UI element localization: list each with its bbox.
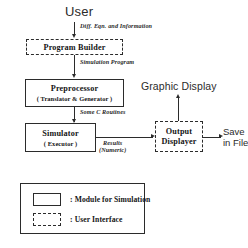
edge-output-displayer-to-graphic-display-line [178,96,179,121]
edge-user-to-program-builder-arrow [72,34,76,38]
node-simulator-sublabel: ( Executor ) [44,140,77,147]
node-preprocessor[interactable]: Preprocessor ( Translator & Generator ) [25,79,124,107]
node-output-displayer[interactable]: Output Displayer [155,121,203,152]
node-user-label: User [65,4,93,19]
edge-label-results-numeric: Results (Numeric) [99,139,126,153]
edge-label-results-line2: (Numeric) [99,146,126,153]
legend-swatch-dashed [33,213,61,226]
legend-label-user-interface: : User Interface [70,215,122,224]
node-simulator-label: Simulator [42,129,78,138]
edge-label-simulation-program: Simulation Program [80,58,134,65]
edge-label-some-c-routines: Some C Routines [80,108,126,115]
edge-output-displayer-to-graphic-display-arrow [176,94,180,98]
node-save-in-file-line1: Save [223,127,248,138]
node-save-in-file-line2: in File [223,138,248,149]
node-graphic-display-label: Graphic Display [141,80,217,92]
node-output-displayer-label-line1: Output [161,127,196,136]
node-preprocessor-sublabel: ( Translator & Generator ) [37,95,113,102]
edge-label-diff-eqn-and-information: Diff. Eqn. and Information [80,22,152,29]
node-program-builder[interactable]: Program Builder [26,39,123,55]
edge-label-results-line1: Results [99,139,126,146]
node-program-builder-label: Program Builder [44,43,106,52]
legend-item-user-interface: : User Interface [33,213,122,226]
legend-swatch-solid [33,193,61,206]
edge-program-builder-to-preprocessor-line [74,55,75,76]
diagram-canvas: User Diff. Eqn. and Information Program … [0,0,248,248]
legend-label-module-for-simulation: : Module for Simulation [70,195,150,204]
node-output-displayer-label-line2: Displayer [161,137,196,146]
legend-item-module-for-simulation: : Module for Simulation [33,193,150,206]
node-output-displayer-label: Output Displayer [161,127,196,146]
node-preprocessor-label: Preprocessor [51,84,98,93]
edge-program-builder-to-preprocessor-arrow [72,74,76,78]
legend-box: : Module for Simulation : User Interface [20,183,145,234]
edge-simulator-to-output-displayer-line [96,137,153,138]
node-simulator[interactable]: Simulator ( Executor ) [25,123,96,152]
node-save-in-file-label: Save in File [223,127,248,148]
